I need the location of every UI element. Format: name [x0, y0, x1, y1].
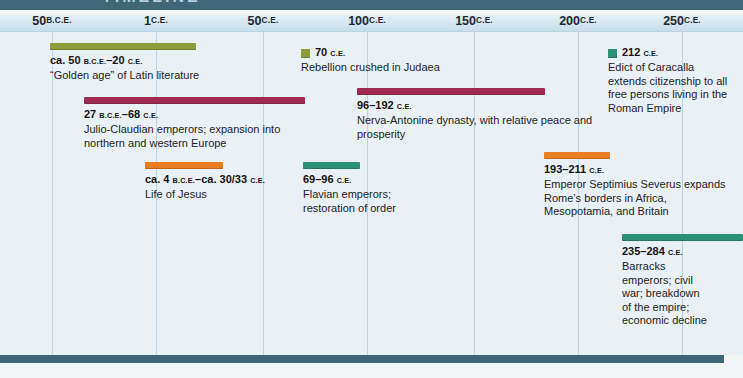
event-point-row: 70 C.E. [301, 46, 476, 60]
event-description: Life of Jesus [145, 188, 295, 202]
event-marker-square [301, 49, 310, 58]
event-date: ca. 50 B.C.E.–20 C.E. [50, 54, 235, 68]
era-ce: C.E. [250, 176, 265, 185]
events-layer: ca. 50 B.C.E.–20 C.E.“Golden age” of Lat… [0, 0, 743, 378]
era-ce: C.E. [397, 102, 412, 111]
era-bce: B.C.E. [173, 176, 196, 185]
event-date: 69–96 C.E. [303, 173, 398, 187]
event-description: Rebellion crushed in Judaea [301, 61, 476, 75]
event-bar-barracks-emperors [622, 234, 743, 241]
era-ce: C.E. [589, 166, 604, 175]
event-text-life-of-jesus: ca. 4 B.C.E.–ca. 30/33 C.E.Life of Jesus [145, 173, 295, 202]
event-description: Emperor Septimius Severus expands Rome’s… [544, 178, 729, 219]
event-text-golden-age-latin-literature: ca. 50 B.C.E.–20 C.E.“Golden age” of Lat… [50, 54, 235, 83]
event-bar-septimius-severus [544, 152, 610, 159]
event-date: 27 B.C.E.–68 C.E. [84, 108, 316, 122]
event-date: 212 C.E. [622, 46, 658, 60]
event-date: 235–284 C.E. [622, 245, 710, 259]
timeline-page: TIMELINE 50 B.C.E.1 C.E.50 C.E.100 C.E.1… [0, 0, 743, 378]
era-bce: B.C.E. [84, 57, 107, 66]
era-bce: B.C.E. [99, 111, 122, 120]
event-text-edict-of-caracalla: 212 C.E.Edict of Caracalla extends citiz… [608, 46, 728, 115]
era-ce: C.E. [337, 176, 352, 185]
event-marker-square [608, 49, 617, 58]
event-description: Julio-Claudian emperors; expansion into … [84, 123, 316, 150]
event-bar-julio-claudian-emperors [84, 97, 305, 104]
event-description: “Golden age” of Latin literature [50, 69, 235, 83]
event-description: Edict of Caracalla extends citizenship t… [608, 61, 728, 115]
event-text-barracks-emperors: 235–284 C.E.Barracks emperors; civil war… [622, 245, 710, 328]
event-point-row: 212 C.E. [608, 46, 728, 60]
event-bar-golden-age-latin-literature [50, 43, 196, 50]
event-text-flavian-emperors: 69–96 C.E.Flavian emperors; restoration … [303, 173, 398, 215]
event-date: 70 C.E. [315, 46, 345, 60]
event-text-rebellion-judaea: 70 C.E.Rebellion crushed in Judaea [301, 46, 476, 75]
era-ce: C.E. [143, 111, 158, 120]
era-ce: C.E. [643, 49, 658, 58]
era-ce: C.E. [668, 248, 683, 257]
event-bar-life-of-jesus [145, 162, 223, 169]
event-text-nerva-antonine-dynasty: 96–192 C.E.Nerva-Antonine dynasty, with … [357, 99, 605, 141]
event-date: 193–211 C.E. [544, 163, 729, 177]
event-date: ca. 4 B.C.E.–ca. 30/33 C.E. [145, 173, 295, 187]
footer-bar [0, 355, 724, 363]
event-bar-nerva-antonine-dynasty [357, 88, 545, 95]
event-text-septimius-severus: 193–211 C.E.Emperor Septimius Severus ex… [544, 163, 729, 219]
event-description: Nerva-Antonine dynasty, with relative pe… [357, 114, 605, 141]
era-ce: C.E. [128, 57, 143, 66]
event-date: 96–192 C.E. [357, 99, 605, 113]
era-ce: C.E. [330, 49, 345, 58]
event-text-julio-claudian-emperors: 27 B.C.E.–68 C.E.Julio-Claudian emperors… [84, 108, 316, 150]
event-description: Barracks emperors; civil war; breakdown … [622, 260, 710, 328]
event-description: Flavian emperors; restoration of order [303, 188, 398, 215]
event-bar-flavian-emperors [303, 162, 360, 169]
